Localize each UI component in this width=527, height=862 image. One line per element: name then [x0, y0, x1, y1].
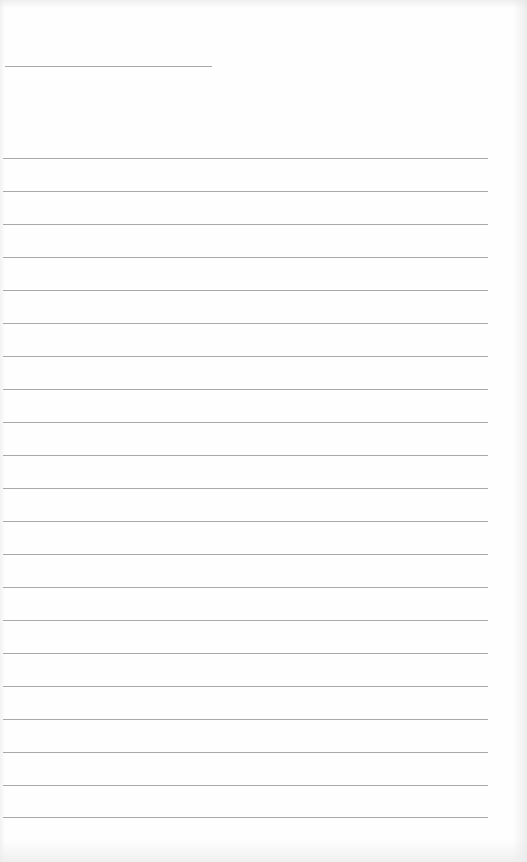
writing-line — [3, 817, 488, 818]
writing-line — [3, 521, 488, 522]
writing-line — [3, 752, 488, 753]
writing-line — [3, 620, 488, 621]
scan-edge-left — [0, 0, 5, 862]
writing-line — [3, 257, 488, 258]
scan-edge-right — [513, 0, 527, 862]
scan-edge-bottom — [0, 840, 527, 862]
writing-line — [3, 422, 488, 423]
writing-line — [3, 191, 488, 192]
writing-line — [3, 587, 488, 588]
writing-line — [3, 158, 488, 159]
writing-line — [3, 653, 488, 654]
writing-line — [3, 389, 488, 390]
writing-line — [3, 686, 488, 687]
writing-line — [3, 488, 488, 489]
writing-line — [3, 224, 488, 225]
writing-line — [3, 323, 488, 324]
scan-edge-top — [0, 0, 527, 8]
writing-line — [3, 719, 488, 720]
writing-line — [3, 290, 488, 291]
writing-line — [3, 455, 488, 456]
lined-paper-page — [0, 0, 527, 862]
writing-line — [3, 356, 488, 357]
header-rule-line — [5, 66, 212, 67]
writing-line — [3, 554, 488, 555]
writing-line — [3, 785, 488, 786]
